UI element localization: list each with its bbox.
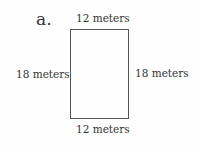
right-side-label: 18 meters <box>135 67 189 79</box>
rectangle <box>70 29 129 119</box>
left-side-label: 18 meters <box>16 68 70 80</box>
bottom-side-label: 12 meters <box>76 123 130 135</box>
top-side-label: 12 meters <box>76 12 130 24</box>
problem-label: a. <box>36 9 52 29</box>
